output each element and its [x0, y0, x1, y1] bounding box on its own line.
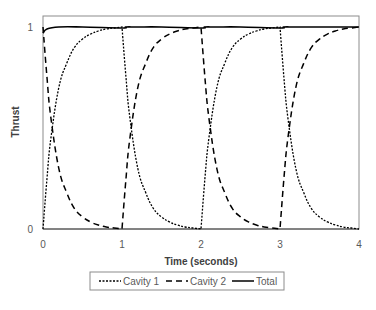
series-line-cavity-2	[43, 27, 359, 229]
legend: Cavity 1 Cavity 2 Total	[90, 272, 284, 290]
y-tick-label: 1	[27, 22, 33, 33]
x-axis-title: Time (seconds)	[164, 256, 237, 267]
chart: 1 0 0 1 2 3 4 Time (seconds) Thrust Cavi…	[0, 0, 376, 310]
series-layer	[43, 27, 359, 229]
y-tick-label: 0	[27, 224, 33, 235]
x-tick-label: 2	[198, 239, 204, 250]
legend-label-cavity-2: Cavity 2	[190, 276, 227, 287]
y-axis-title: Thrust	[10, 106, 21, 138]
x-tick-label: 4	[356, 239, 362, 250]
legend-label-total: Total	[256, 276, 277, 287]
x-tick-label: 1	[119, 239, 125, 250]
x-tick-label: 3	[277, 239, 283, 250]
legend-label-cavity-1: Cavity 1	[123, 276, 160, 287]
x-tick-label: 0	[40, 239, 46, 250]
series-line-cavity-1	[43, 27, 359, 229]
